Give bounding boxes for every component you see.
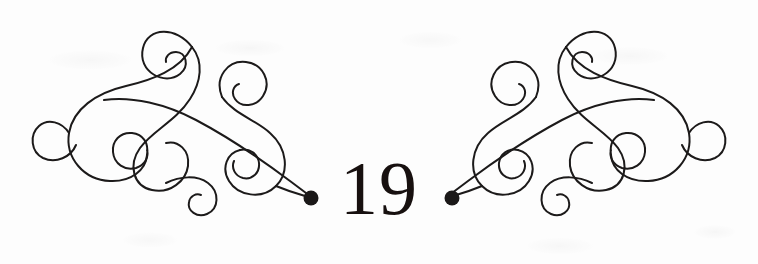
right-flourish-outer-bowl <box>566 47 690 181</box>
flourish-ornament-artwork <box>0 0 758 264</box>
left-flourish-inner-eye <box>113 133 148 169</box>
left-flourish <box>33 32 319 215</box>
left-flourish-lower-hook <box>166 177 217 215</box>
left-flourish-terminal-dot <box>304 191 319 206</box>
right-flourish-diagonal-band <box>452 99 654 193</box>
left-flourish-diagonal-band <box>104 99 306 193</box>
right-flourish-left-inner-coil <box>499 150 525 179</box>
right-flourish <box>445 32 726 215</box>
right-flourish-terminal-dot <box>445 191 460 206</box>
left-flourish-upper-right-spiral <box>220 62 267 105</box>
right-flourish-inner-eye <box>610 133 645 169</box>
left-flourish-dot-tail <box>276 186 305 196</box>
left-flourish-right-lobe <box>222 97 285 195</box>
page-ornament-container: 19 <box>0 0 758 264</box>
right-flourish-upper-left-spiral <box>491 62 538 105</box>
left-flourish-right-inner-coil <box>233 150 259 179</box>
right-flourish-lower-hook <box>541 177 592 215</box>
right-flourish-left-lobe <box>473 97 536 195</box>
left-flourish-outer-bowl <box>68 47 192 181</box>
